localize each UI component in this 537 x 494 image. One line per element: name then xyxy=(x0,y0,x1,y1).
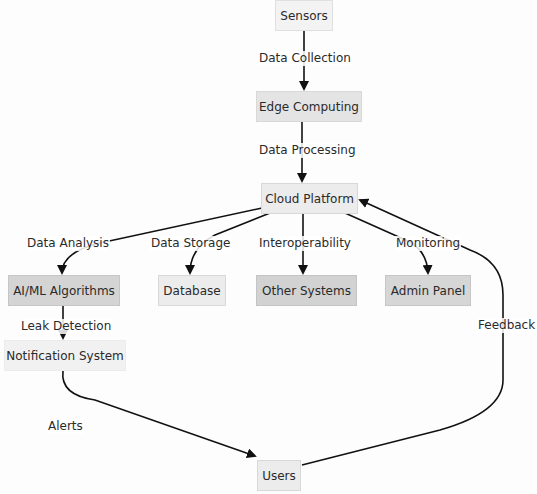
flow-diagram: Sensors Edge Computing Cloud Platform AI… xyxy=(0,0,537,494)
node-admin-panel: Admin Panel xyxy=(385,275,471,306)
edge-label-data-analysis: Data Analysis xyxy=(26,236,110,251)
edge-label-leak-detection: Leak Detection xyxy=(20,319,112,334)
node-sensors-label: Sensors xyxy=(280,9,327,23)
node-aiml-algorithms: AI/ML Algorithms xyxy=(8,275,120,306)
edge-label-monitoring: Monitoring xyxy=(395,236,461,251)
edge-label-feedback: Feedback xyxy=(477,318,536,333)
node-cloud-platform-label: Cloud Platform xyxy=(265,192,354,206)
node-database: Database xyxy=(158,275,226,306)
node-admin-panel-label: Admin Panel xyxy=(391,284,465,298)
edge-label-data-collection: Data Collection xyxy=(258,51,352,66)
node-aiml-label: AI/ML Algorithms xyxy=(13,284,115,298)
node-other-systems-label: Other Systems xyxy=(262,284,351,298)
edge-label-data-storage: Data Storage xyxy=(150,236,231,251)
node-notification-label: Notification System xyxy=(6,349,123,363)
node-notification-system: Notification System xyxy=(4,340,126,371)
node-edge-computing-label: Edge Computing xyxy=(259,100,359,114)
node-sensors: Sensors xyxy=(275,0,333,31)
edge-label-alerts: Alerts xyxy=(47,419,84,434)
node-users: Users xyxy=(257,460,301,491)
edge-label-interoperability: Interoperability xyxy=(258,236,352,251)
node-users-label: Users xyxy=(262,469,296,483)
node-other-systems: Other Systems xyxy=(256,275,357,306)
node-edge-computing: Edge Computing xyxy=(256,91,362,122)
node-database-label: Database xyxy=(163,284,220,298)
edge-label-data-processing: Data Processing xyxy=(258,143,357,158)
edge-notification-users xyxy=(63,371,255,456)
node-cloud-platform: Cloud Platform xyxy=(261,183,358,214)
